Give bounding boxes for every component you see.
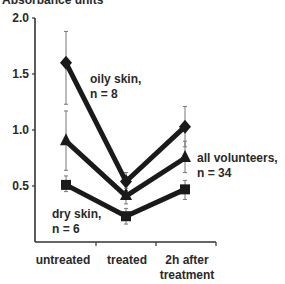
y-tick-label: 0.5 — [12, 179, 29, 193]
triangle-marker — [60, 133, 72, 145]
y-tick-label: 2.0 — [12, 11, 29, 25]
series-annotation: n = 6 — [52, 222, 80, 236]
line-chart: Absorbance units 0.51.01.52.0untreatedtr… — [0, 0, 285, 284]
square-marker — [180, 184, 190, 194]
series-annotation: dry skin, — [52, 207, 101, 221]
x-category-label: untreated — [36, 253, 91, 267]
x-category-label: treatment — [160, 268, 215, 282]
x-category-label: treated — [107, 253, 147, 267]
y-tick-label: 1.0 — [12, 123, 29, 137]
series-annotation: n = 34 — [197, 166, 232, 180]
x-category-label: 2h after — [165, 253, 209, 267]
square-marker — [61, 180, 71, 190]
series-annotation: n = 8 — [90, 87, 118, 101]
series-group — [60, 31, 191, 224]
triangle-marker — [179, 150, 191, 162]
series-annotation: oily skin, — [90, 72, 141, 86]
y-axis-label: Absorbance units — [2, 0, 104, 7]
y-tick-label: 1.5 — [12, 67, 29, 81]
square-marker — [121, 211, 131, 221]
series-annotation: all volunteers, — [197, 151, 278, 165]
